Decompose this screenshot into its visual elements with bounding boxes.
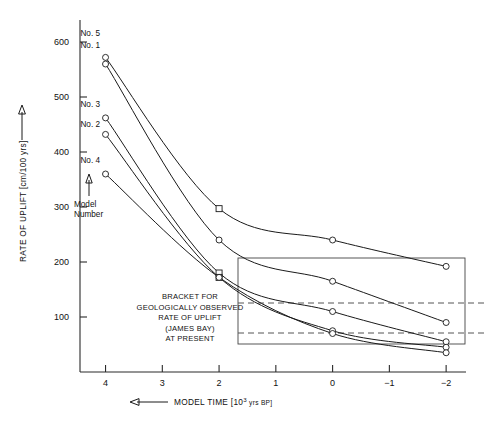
data-point: [330, 331, 336, 337]
data-point: [443, 320, 449, 326]
model-number-label-line2: Number: [74, 210, 103, 219]
bracket-caption-line-2: GEOLOGICALLY OBSERVED: [137, 303, 244, 312]
data-point: [330, 309, 336, 315]
bracket-box: [238, 258, 465, 344]
curve-no-5: [106, 57, 447, 266]
y-tick-label: 500: [54, 92, 69, 102]
x-tick-label: 1: [273, 378, 278, 388]
bracket-caption-line-4: (JAMES BAY): [165, 324, 215, 333]
chart-svg: 100200300400500600 43210−1−2 RATE OF UPL…: [0, 0, 488, 423]
series-label-no-2: No. 2: [80, 120, 100, 129]
data-point: [216, 274, 222, 280]
data-point: [216, 237, 222, 243]
x-axis-title: MODEL TIME [103 yrs BP]: [174, 396, 272, 407]
uplift-rate-chart: 100200300400500600 43210−1−2 RATE OF UPL…: [0, 0, 488, 423]
x-tick-label: −1: [384, 378, 394, 388]
series-label-no-1: No. 1: [80, 41, 100, 50]
model-number-label-line1: Model: [74, 200, 96, 209]
bracket-caption-line-5: AT PRESENT: [166, 334, 215, 343]
data-point: [103, 131, 109, 137]
axes: [80, 20, 466, 372]
x-tick-label: 4: [103, 378, 108, 388]
data-point: [103, 115, 109, 121]
x-axis-title-main: MODEL TIME [10: [174, 397, 243, 407]
model-number-annotation: Model Number: [74, 174, 103, 219]
data-point: [330, 237, 336, 243]
data-point: [103, 171, 109, 177]
y-axis-title: RATE OF UPLIFT [cm/100 yrs]: [18, 140, 28, 262]
data-point: [443, 263, 449, 269]
x-tick-label: 0: [330, 378, 335, 388]
y-tick-label: 400: [54, 147, 69, 157]
series-label-no-5: No. 5: [80, 29, 100, 38]
data-point: [330, 278, 336, 284]
curve-no-2: [106, 134, 447, 347]
x-axis-ticks: 43210−1−2: [103, 365, 451, 388]
y-tick-label: 300: [54, 202, 69, 212]
y-tick-label: 100: [54, 312, 69, 322]
x-tick-label: −2: [441, 378, 451, 388]
y-axis-ticks: 100200300400500600: [54, 37, 87, 322]
bracket-caption-line-3: RATE OF UPLIFT: [158, 313, 222, 322]
x-tick-label: 2: [217, 378, 222, 388]
y-tick-label: 200: [54, 257, 69, 267]
x-axis-title-units: yrs BP]: [247, 399, 272, 407]
curve-no-4: [106, 174, 447, 353]
series-label-no-3: No. 3: [80, 100, 100, 109]
data-point: [103, 61, 109, 67]
bracket-region: [238, 258, 488, 344]
y-axis-title-group: RATE OF UPLIFT [cm/100 yrs]: [18, 105, 28, 262]
bracket-caption-line-1: BRACKET FOR: [162, 292, 218, 301]
curve-no-1: [106, 64, 447, 323]
x-tick-label: 3: [160, 378, 165, 388]
x-axis-title-group: MODEL TIME [103 yrs BP]: [130, 396, 272, 407]
data-point: [443, 350, 449, 356]
data-point: [103, 54, 109, 60]
y-tick-label: 600: [54, 37, 69, 47]
bracket-caption: BRACKET FOR GEOLOGICALLY OBSERVED RATE O…: [137, 292, 244, 343]
series-label-no-4: No. 4: [80, 156, 100, 165]
data-point: [216, 206, 222, 212]
